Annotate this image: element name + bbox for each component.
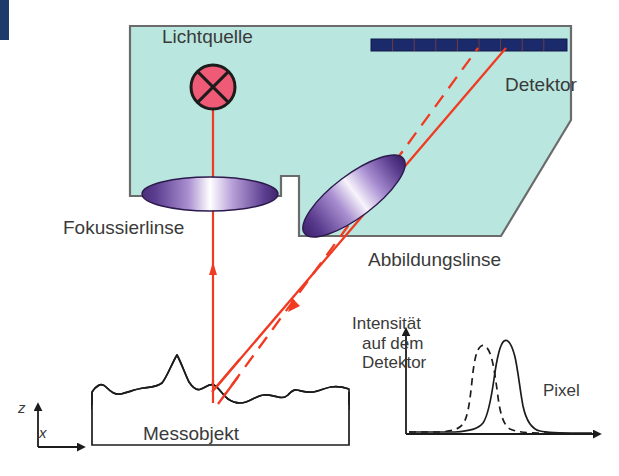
label-axis-x: x <box>39 424 47 441</box>
label-intensity-axis: Intensität auf dem Detektor <box>352 314 426 373</box>
label-detector: Detektor <box>505 74 577 96</box>
label-intensity-line3: Detektor <box>352 353 426 373</box>
focusing-lens <box>142 177 278 211</box>
label-intensity-line2: auf dem <box>352 334 426 354</box>
label-light-source: Lichtquelle <box>162 26 253 48</box>
label-measurement-object: Messobjekt <box>143 423 239 445</box>
label-focusing-lens: Fokussierlinse <box>63 217 184 239</box>
label-imaging-lens: Abbildungslinse <box>368 249 501 271</box>
detector-array <box>371 39 567 51</box>
page-margin-bar <box>0 0 9 40</box>
label-pixel-axis: Pixel <box>543 381 580 401</box>
label-intensity-line1: Intensität <box>352 314 426 334</box>
label-axis-z: z <box>18 399 26 416</box>
figure-canvas: Lichtquelle Detektor Fokussierlinse Abbi… <box>0 0 619 476</box>
light-source-lamp <box>191 65 235 109</box>
